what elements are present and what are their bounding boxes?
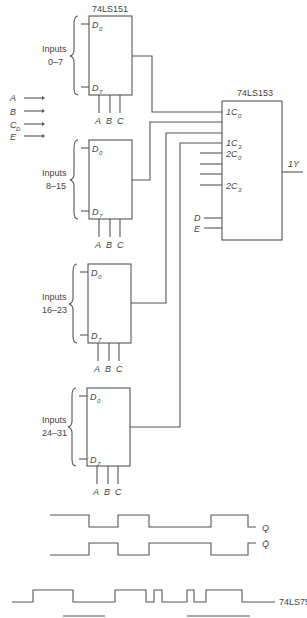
svg-text:D: D (90, 455, 97, 465)
svg-text:B: B (10, 107, 16, 117)
svg-text:D: D (90, 392, 97, 402)
svg-text:1C: 1C (226, 138, 238, 148)
svg-text:0: 0 (238, 155, 242, 161)
svg-text:0: 0 (238, 113, 242, 119)
svg-text:B: B (106, 116, 112, 126)
svg-text:B: B (106, 240, 112, 250)
circuit-diagram: 74LS151 D0 D7 ABC Inputs0–7 D0 D7 ABC In… (0, 0, 307, 618)
svg-text:Q: Q (262, 523, 269, 533)
svg-text:D: D (194, 213, 201, 223)
svg-text:1C: 1C (226, 107, 238, 117)
mux151-block-4: D0 D7 ABC Inputs24–31 (42, 388, 130, 497)
svg-text:B: B (104, 487, 110, 497)
svg-text:A: A (93, 364, 100, 374)
svg-text:3: 3 (238, 144, 242, 150)
svg-text:D: D (16, 126, 21, 132)
svg-text:7: 7 (99, 213, 103, 219)
svg-text:0: 0 (98, 274, 102, 280)
external-inputs: A B CD E (9, 93, 45, 142)
svg-text:7: 7 (98, 337, 102, 343)
svg-text:E: E (10, 132, 17, 142)
svg-text:0: 0 (99, 26, 103, 32)
svg-text:0–7: 0–7 (48, 57, 63, 67)
svg-text:16–23: 16–23 (42, 305, 67, 315)
mux153-block: 74LS153 1C0 1C3 2C0 2C3 D E 1Y (194, 88, 303, 240)
svg-text:A: A (9, 93, 16, 103)
svg-text:D: D (92, 20, 99, 30)
svg-text:0: 0 (99, 150, 103, 156)
svg-text:Inputs: Inputs (42, 292, 67, 302)
svg-text:D: D (92, 83, 99, 93)
svg-text:24–31: 24–31 (42, 428, 67, 438)
mux151-block-3: D0 D7 ABC Inputs16–23 (42, 264, 131, 374)
mux151-title: 74LS151 (92, 4, 128, 14)
svg-text:A: A (92, 487, 99, 497)
svg-text:2C: 2C (225, 149, 238, 159)
svg-text:C: C (117, 240, 124, 250)
svg-text:Inputs: Inputs (42, 44, 67, 54)
svg-text:8–15: 8–15 (46, 181, 66, 191)
latch-waveform: 74LS75 (12, 590, 307, 616)
svg-text:D: D (92, 207, 99, 217)
svg-text:B: B (105, 364, 111, 374)
svg-text:A: A (94, 240, 101, 250)
svg-text:C: C (117, 116, 124, 126)
svg-text:74LS75: 74LS75 (279, 597, 307, 607)
svg-text:1Y: 1Y (288, 159, 300, 169)
svg-text:Inputs: Inputs (42, 415, 67, 425)
svg-text:2C: 2C (225, 181, 238, 191)
mux151-block-2: D0 D7 ABC Inputs8–15 (42, 140, 132, 250)
svg-text:A: A (94, 116, 101, 126)
svg-text:C: C (116, 364, 123, 374)
svg-text:D: D (92, 144, 99, 154)
svg-text:D: D (91, 268, 98, 278)
mux151-block-1: D0 D7 ABC Inputs0–7 (42, 16, 132, 126)
svg-text:C: C (115, 487, 122, 497)
svg-text:Q̄: Q̄ (262, 539, 269, 549)
svg-text:0: 0 (97, 398, 101, 404)
interconnect-wires (130, 56, 222, 427)
svg-text:7: 7 (99, 89, 103, 95)
svg-text:3: 3 (238, 187, 242, 193)
svg-text:D: D (91, 331, 98, 341)
q-waveforms: Q Q̄ (50, 515, 269, 555)
svg-text:Inputs: Inputs (42, 168, 67, 178)
svg-text:74LS153: 74LS153 (237, 88, 273, 98)
svg-text:E: E (194, 224, 201, 234)
